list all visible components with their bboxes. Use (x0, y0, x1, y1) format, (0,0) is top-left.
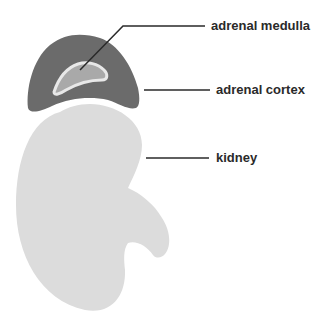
kidney-shape (16, 104, 169, 311)
label-adrenal-medulla: adrenal medulla (211, 19, 310, 32)
label-kidney: kidney (216, 151, 257, 164)
kidney-adrenal-diagram (0, 0, 328, 319)
label-adrenal-cortex: adrenal cortex (216, 83, 305, 96)
